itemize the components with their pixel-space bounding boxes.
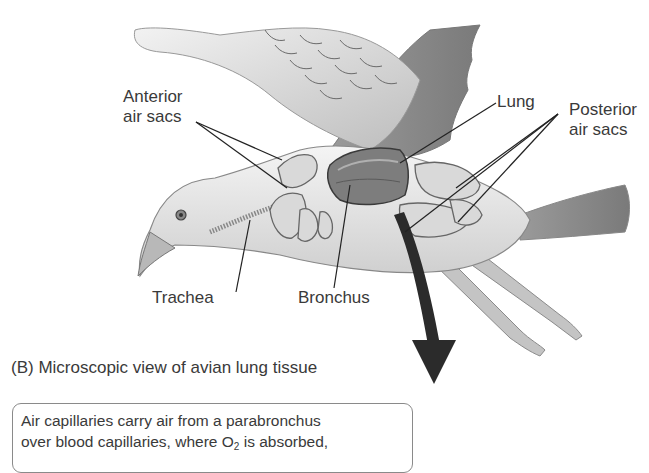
label-line: air sacs — [123, 107, 183, 127]
label-trachea: Trachea — [152, 288, 214, 308]
callout-text: is absorbed, — [239, 433, 328, 450]
callout-box: Air capillaries carry air from a parabro… — [12, 403, 413, 473]
label-line: Posterior — [569, 100, 637, 120]
label-line: air sacs — [569, 120, 637, 140]
label-line: Anterior — [123, 87, 183, 107]
callout-line-2: over blood capillaries, where O2 is abso… — [21, 431, 412, 457]
label-lung: Lung — [497, 92, 535, 112]
label-posterior-air-sacs: Posterior air sacs — [569, 100, 637, 140]
label-bronchus: Bronchus — [298, 288, 370, 308]
callout-text: over blood capillaries, where O — [21, 433, 234, 450]
tail — [520, 185, 630, 240]
label-anterior-air-sacs: Anterior air sacs — [123, 87, 183, 127]
panel-b-caption: (B) Microscopic view of avian lung tissu… — [11, 358, 317, 378]
callout-line-1: Air capillaries carry air from a parabro… — [21, 410, 412, 431]
